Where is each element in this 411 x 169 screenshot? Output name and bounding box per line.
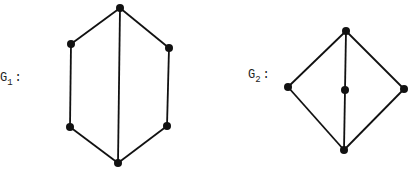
edge-upper-left-lower-left [70, 44, 71, 127]
graph-g1-label: G1: [0, 71, 22, 88]
vertex-lower-left [66, 123, 74, 131]
graph-g2-label: G2: [248, 68, 270, 85]
vertex-left [284, 83, 292, 91]
edge-top-right [346, 31, 404, 89]
vertex-middle [341, 86, 349, 94]
edge-lower-right-bottom [118, 126, 167, 163]
edge-top-bottom [118, 8, 120, 163]
edge-left-bottom [288, 87, 344, 150]
edge-upper-right-lower-right [167, 48, 169, 126]
edge-top-left [288, 31, 346, 87]
graph-g1: G1: [0, 4, 173, 167]
edge-top-upper-right [120, 8, 169, 48]
vertex-bottom [340, 146, 348, 154]
edge-middle-bottom [344, 90, 345, 150]
vertex-right [400, 85, 408, 93]
vertex-lower-right [163, 122, 171, 130]
vertex-top [116, 4, 124, 12]
vertex-bottom [114, 159, 122, 167]
edge-top-middle [345, 31, 346, 90]
edge-lower-left-bottom [70, 127, 118, 163]
edge-right-bottom [344, 89, 404, 150]
edge-top-upper-left [71, 8, 120, 44]
vertex-upper-left [67, 40, 75, 48]
vertex-upper-right [165, 44, 173, 52]
vertex-top [342, 27, 350, 35]
graph-diagram: G1: G2: [0, 0, 411, 169]
graph-g2: G2: [248, 27, 408, 154]
